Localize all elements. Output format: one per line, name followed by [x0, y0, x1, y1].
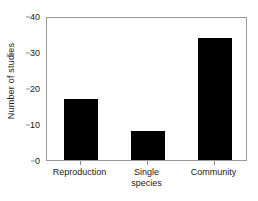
x-axis-category-label: Community [191, 167, 237, 178]
bar [131, 131, 165, 160]
y-axis-tick-mark [31, 161, 35, 162]
y-axis-tick-mark [26, 17, 30, 18]
y-axis-tick-label: 40 [30, 13, 40, 22]
plot-area [46, 17, 247, 161]
y-axis-tick-label: 20 [30, 85, 40, 94]
x-axis-category-label: Single species [131, 167, 162, 189]
x-axis-tick-labels: ReproductionSingle speciesCommunity [46, 167, 247, 197]
y-axis-tick-labels: 403020100 [20, 0, 42, 201]
bar-chart-figure: Number of studies 403020100 Reproduction… [0, 0, 258, 201]
x-axis-tick-mark [80, 161, 81, 165]
y-axis-title-text: Number of studies [6, 42, 16, 118]
x-axis-tick-marks [46, 161, 247, 166]
bar [198, 38, 232, 160]
y-axis-title: Number of studies [2, 0, 20, 161]
y-axis-tick-label: 0 [35, 157, 40, 166]
x-axis-tick-mark [214, 161, 215, 165]
y-axis-tick-mark [26, 53, 30, 54]
y-axis-tick-label: 30 [30, 49, 40, 58]
y-axis-tick-mark [26, 89, 30, 90]
bar-series [47, 18, 246, 160]
y-axis-tick-label: 10 [30, 121, 40, 130]
x-axis-tick-mark [147, 161, 148, 165]
x-axis-category-label: Reproduction [53, 167, 107, 178]
bar [64, 99, 98, 160]
y-axis-tick-mark [26, 125, 30, 126]
